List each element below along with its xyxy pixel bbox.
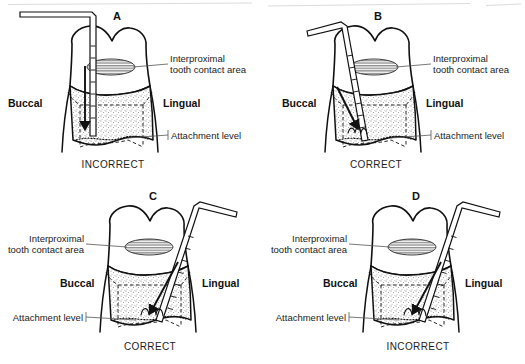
label-interproximal-line1-c: Interproximal [29, 233, 84, 244]
label-buccal-a: Buccal [8, 97, 43, 109]
gingiva-d [371, 266, 454, 325]
panel-letter-d: D [412, 190, 420, 202]
contact-area-d [388, 239, 436, 255]
label-lingual-b: Lingual [426, 97, 463, 109]
label-interproximal-line2-c: tooth contact area [8, 244, 85, 255]
label-attachment-d: Attachment level [276, 312, 346, 323]
gingiva-a [70, 86, 153, 145]
label-interproximal-line2-a: tooth contact area [170, 64, 247, 75]
panel-letter-a: A [113, 10, 121, 22]
contact-area-b [350, 59, 398, 75]
label-interproximal-line1-d: Interproximal [292, 233, 347, 244]
gingiva-c [108, 266, 191, 325]
caption-a: INCORRECT [81, 159, 144, 170]
label-lingual-a: Lingual [163, 97, 200, 109]
label-interproximal-line1-b: Interproximal [433, 53, 488, 64]
label-interproximal-line1-a: Interproximal [170, 53, 225, 64]
label-buccal-b: Buccal [282, 97, 317, 109]
label-buccal-d: Buccal [323, 277, 358, 289]
contact-area-c [125, 239, 173, 255]
label-lingual-d: Lingual [465, 277, 502, 289]
label-buccal-c: Buccal [60, 277, 95, 289]
label-attachment-b: Attachment level [434, 130, 504, 141]
panel-letter-b: B [374, 10, 382, 22]
label-lingual-c: Lingual [202, 277, 239, 289]
label-interproximal-line2-d: tooth contact area [271, 244, 348, 255]
label-attachment-c: Attachment level [13, 312, 83, 323]
label-attachment-a: Attachment level [171, 130, 241, 141]
figure-container: A Buccal Lingual Interproximal tooth con… [0, 0, 525, 364]
caption-c: CORRECT [124, 341, 176, 352]
caption-b: CORRECT [350, 159, 402, 170]
panel-letter-c: C [149, 190, 157, 202]
caption-d: INCORRECT [386, 341, 449, 352]
gingiva-b [333, 86, 416, 145]
label-interproximal-line2-b: tooth contact area [433, 64, 510, 75]
dental-probing-figure: A Buccal Lingual Interproximal tooth con… [0, 0, 525, 364]
